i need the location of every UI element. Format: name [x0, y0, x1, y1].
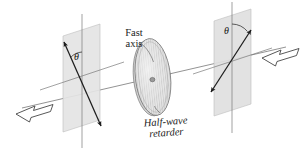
- output-theta-label: θ: [224, 25, 229, 36]
- input-polarization-plane: [63, 24, 100, 132]
- fast-axis-label: Fast axis: [110, 27, 158, 50]
- output-polarization-plane: [214, 9, 251, 116]
- input-theta-label: θ: [74, 51, 79, 62]
- optics-figure: Fast axis Half-wave retarder θ θ: [0, 0, 303, 164]
- input-beam-direction-arrow-icon: [16, 105, 53, 123]
